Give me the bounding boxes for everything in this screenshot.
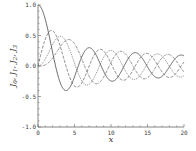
series-line-j1 <box>38 31 184 88</box>
y-tick-label: 1.0 <box>25 1 36 8</box>
series-line-j2 <box>38 36 184 85</box>
y-axis-title: J0, J1, J2, J3 <box>8 44 18 89</box>
y-tick-label: 0.5 <box>25 32 36 39</box>
y-tick-label: 0.0 <box>25 62 36 69</box>
plot-lines <box>38 5 184 91</box>
bessel-chart: 051015201.00.50.0-0.5-1.0 x J0, J1, J2, … <box>0 0 196 151</box>
axes <box>38 5 184 127</box>
x-tick-label: 20 <box>180 129 188 136</box>
x-tick-label: 5 <box>73 129 77 136</box>
x-axis-title: x <box>109 135 114 144</box>
series-line-j3 <box>38 40 184 84</box>
tick-labels: 051015201.00.50.0-0.5-1.0 <box>22 1 188 136</box>
x-tick-label: 0 <box>36 129 40 136</box>
svg-text:J0, J1, J2, J3: J0, J1, J2, J3 <box>8 44 18 89</box>
x-tick-label: 15 <box>144 129 152 136</box>
y-tick-label: -0.5 <box>22 93 37 100</box>
y-tick-label: -1.0 <box>22 123 37 130</box>
